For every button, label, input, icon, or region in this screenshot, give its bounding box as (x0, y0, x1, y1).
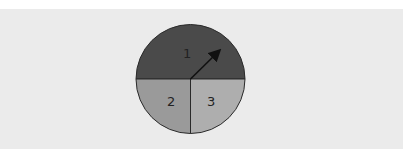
section-2-label: 2 (167, 94, 175, 109)
spinner-section-3 (191, 79, 246, 134)
spinner-diagram: 1 2 3 (0, 0, 408, 152)
section-3-label: 3 (207, 94, 215, 109)
spinner-section-2 (136, 79, 191, 134)
section-1-label: 1 (183, 46, 191, 61)
